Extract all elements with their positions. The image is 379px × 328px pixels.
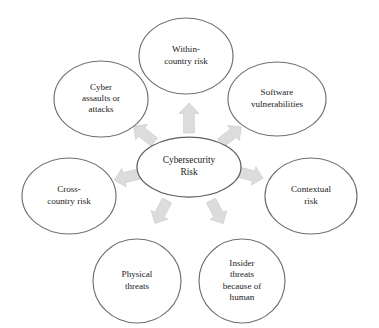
arrow-to-within-country-risk bbox=[179, 103, 199, 133]
node-label: Physicalthreats bbox=[122, 270, 153, 291]
node-physical-threats[interactable]: Physicalthreats bbox=[93, 239, 181, 323]
node-cyber-assaults-or-attacks[interactable]: Cyberassaults orattacks bbox=[54, 61, 148, 137]
node-software-vulnerabilities[interactable]: Softwarevulnerabilities bbox=[228, 62, 326, 136]
node-within-country-risk[interactable]: Within-country risk bbox=[139, 18, 233, 94]
center-node-cybersecurity-risk[interactable]: CybersecurityRisk bbox=[137, 137, 241, 197]
arrow-to-physical-threats bbox=[147, 196, 176, 228]
node-contextual-risk[interactable]: Contextualrisk bbox=[265, 158, 357, 234]
arrow-icon bbox=[179, 103, 199, 133]
arrow-icon bbox=[147, 196, 176, 228]
node-insider-threats-because-of-human[interactable]: Insiderthreatsbecause ofhuman bbox=[199, 239, 285, 323]
arrow-icon bbox=[203, 196, 232, 228]
cybersecurity-risk-diagram: Within-country riskSoftwarevulnerabiliti… bbox=[0, 0, 379, 328]
center-node-group: CybersecurityRisk bbox=[137, 137, 241, 197]
node-cross-country-risk[interactable]: Cross-country risk bbox=[22, 158, 116, 234]
arrow-to-insider-threats bbox=[203, 196, 232, 228]
diagram-canvas: Within-country riskSoftwarevulnerabiliti… bbox=[0, 0, 379, 328]
